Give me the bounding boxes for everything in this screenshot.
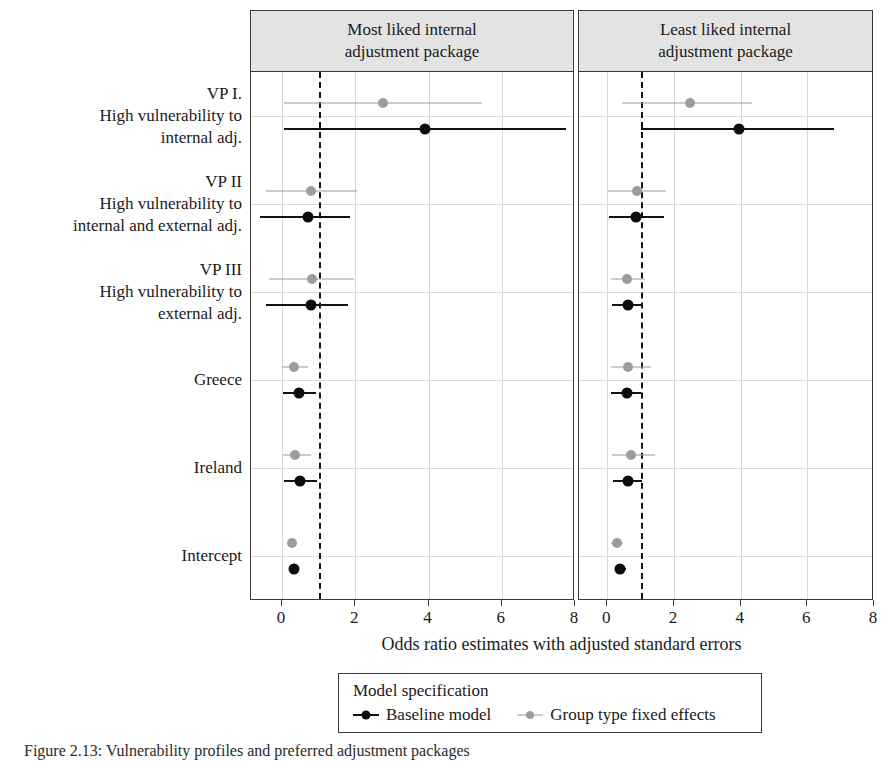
x-axis-tick (673, 600, 674, 606)
legend: Model specification Baseline model Group… (338, 673, 762, 733)
x-axis-tick-label: 0 (602, 608, 611, 628)
estimate-point[interactable] (612, 538, 622, 548)
x-axis-tick (428, 600, 429, 606)
grid-line-horizontal (579, 116, 872, 117)
legend-row: Baseline model Group type fixed effects (353, 705, 747, 725)
grid-line-horizontal (579, 468, 872, 469)
grid-line-horizontal (579, 292, 872, 293)
estimate-point[interactable] (419, 124, 430, 135)
estimate-point[interactable] (615, 564, 626, 575)
estimate-point[interactable] (626, 450, 636, 460)
legend-key-baseline-icon (353, 709, 379, 721)
estimate-point[interactable] (306, 186, 316, 196)
estimate-point[interactable] (287, 538, 297, 548)
x-axis-tick-label: 4 (735, 608, 744, 628)
forest-plot-figure: Most liked internal adjustment package L… (0, 0, 885, 761)
panel-header-least-line2: adjustment package (658, 41, 793, 63)
grid-line-horizontal (579, 204, 872, 205)
estimate-point[interactable] (622, 274, 632, 284)
estimate-point[interactable] (632, 186, 642, 196)
grid-line-vertical (282, 72, 283, 599)
panel-header-most-liked: Most liked internal adjustment package (250, 10, 574, 72)
grid-line-horizontal (251, 380, 573, 381)
x-axis-tick-label: 6 (802, 608, 811, 628)
panel-header-least-line1: Least liked internal (658, 19, 793, 41)
x-axis-tick-label: 6 (497, 608, 506, 628)
x-axis-tick (574, 600, 575, 606)
grid-line-horizontal (251, 556, 573, 557)
grid-line-vertical (502, 72, 503, 599)
estimate-point[interactable] (630, 212, 641, 223)
x-axis-tick-label: 0 (277, 608, 286, 628)
estimate-point[interactable] (289, 564, 300, 575)
y-axis-label-vp2: VP II High vulnerability to internal and… (0, 171, 242, 237)
panel-header-least-liked: Least liked internal adjustment package (578, 10, 873, 72)
x-axis-tick-label: 2 (669, 608, 678, 628)
x-axis-tick-label: 4 (423, 608, 432, 628)
estimate-point[interactable] (293, 388, 304, 399)
x-axis-tick (606, 600, 607, 606)
grid-line-horizontal (251, 292, 573, 293)
x-axis-tick-label: 8 (570, 608, 579, 628)
estimate-point[interactable] (303, 212, 314, 223)
panel-header-most-line1: Most liked internal (345, 19, 480, 41)
grid-line-vertical (741, 72, 742, 599)
estimate-point[interactable] (307, 274, 317, 284)
x-axis-tick (740, 600, 741, 606)
estimate-point[interactable] (623, 300, 634, 311)
grid-line-horizontal (579, 556, 872, 557)
figure-caption: Figure 2.13: Vulnerability profiles and … (24, 742, 864, 761)
y-axis-label-greece: Greece (0, 369, 242, 391)
grid-line-vertical (429, 72, 430, 599)
grid-line-horizontal (251, 116, 573, 117)
panel-least-plot-area (579, 72, 872, 599)
estimate-point[interactable] (623, 476, 634, 487)
grid-line-vertical (674, 72, 675, 599)
grid-line-vertical (607, 72, 608, 599)
y-axis-label-intercept: Intercept (0, 545, 242, 567)
legend-entry-baseline[interactable]: Baseline model (353, 705, 491, 725)
panel-most-plot-area (251, 72, 573, 599)
legend-label-baseline: Baseline model (386, 705, 491, 725)
estimate-point[interactable] (685, 98, 695, 108)
grid-line-horizontal (251, 468, 573, 469)
x-axis-tick-label: 8 (869, 608, 878, 628)
reference-line-odds-ratio-1 (641, 72, 643, 599)
grid-line-vertical (355, 72, 356, 599)
x-axis-tick (501, 600, 502, 606)
x-axis-title: Odds ratio estimates with adjusted stand… (250, 634, 873, 655)
y-axis-label-vp1: VP I. High vulnerability to internal adj… (0, 83, 242, 149)
estimate-point[interactable] (294, 476, 305, 487)
x-axis-tick (806, 600, 807, 606)
legend-entry-group-type-fixed-effects[interactable]: Group type fixed effects (517, 705, 715, 725)
panel-most-liked (250, 72, 574, 600)
y-axis-label-ireland: Ireland (0, 457, 242, 479)
estimate-point[interactable] (290, 450, 300, 460)
x-axis-tick (873, 600, 874, 606)
reference-line-odds-ratio-1 (319, 72, 321, 599)
estimate-point[interactable] (305, 300, 316, 311)
x-axis-tick-label: 2 (350, 608, 359, 628)
grid-line-vertical (807, 72, 808, 599)
estimate-point[interactable] (289, 362, 299, 372)
grid-line-horizontal (251, 204, 573, 205)
panel-header-most-line2: adjustment package (345, 41, 480, 63)
legend-label-grouptype: Group type fixed effects (550, 705, 715, 725)
estimate-point[interactable] (378, 98, 388, 108)
grid-line-horizontal (579, 380, 872, 381)
y-axis-label-vp3: VP III High vulnerability to external ad… (0, 259, 242, 325)
estimate-point[interactable] (623, 362, 633, 372)
panel-least-liked (578, 72, 873, 600)
estimate-point[interactable] (621, 388, 632, 399)
estimate-point[interactable] (734, 124, 745, 135)
x-axis-tick (354, 600, 355, 606)
x-axis-tick (281, 600, 282, 606)
legend-title: Model specification (353, 681, 747, 701)
legend-key-grouptype-icon (517, 709, 543, 721)
